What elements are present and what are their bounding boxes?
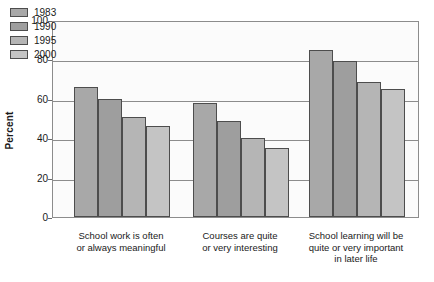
legend-item-1983[interactable]: 1983 xyxy=(10,6,96,19)
bar-1995-group-2 xyxy=(241,138,265,217)
bar-1995-group-3 xyxy=(357,82,381,217)
legend-swatch-icon-2000 xyxy=(10,50,28,59)
bar-1995-group-1 xyxy=(122,117,146,217)
legend-label-1983: 1983 xyxy=(34,8,56,18)
legend-item-1995[interactable]: 1995 xyxy=(10,34,96,47)
gridline-80 xyxy=(53,61,418,62)
bar-2000-group-3 xyxy=(381,89,405,217)
y-tick-label-0: 0 xyxy=(24,213,48,223)
bar-chart: Percent 100806040200 1983199019952000 Sc… xyxy=(0,0,434,282)
bar-1990-group-3 xyxy=(333,61,357,217)
x-category-label-3-line-1: School learning will be xyxy=(281,230,431,242)
y-axis-title: Percent xyxy=(0,95,18,165)
bar-1983-group-1 xyxy=(74,87,98,217)
plot-area xyxy=(52,21,419,218)
x-category-label-3-line-3: in later life xyxy=(281,253,431,265)
legend-item-1990[interactable]: 1990 xyxy=(10,20,96,33)
bar-2000-group-2 xyxy=(265,148,289,217)
legend-swatch-icon-1995 xyxy=(10,36,28,45)
legend-label-2000: 2000 xyxy=(34,50,56,60)
y-tickmark-0 xyxy=(48,218,52,219)
y-axis-title-text: Percent xyxy=(4,111,15,149)
y-tick-label-40: 40 xyxy=(24,134,48,144)
legend-swatch-icon-1983 xyxy=(10,8,28,17)
bar-1990-group-1 xyxy=(98,99,122,217)
x-category-label-3: School learning will bequite or very imp… xyxy=(281,230,431,265)
legend-swatch-icon-1990 xyxy=(10,22,28,31)
legend-label-1995: 1995 xyxy=(34,36,56,46)
y-tick-label-20: 20 xyxy=(24,174,48,184)
legend-label-1990: 1990 xyxy=(34,22,56,32)
bar-1990-group-2 xyxy=(217,121,241,217)
chart-legend: 1983199019952000 xyxy=(10,6,96,62)
bar-1983-group-2 xyxy=(193,103,217,217)
legend-item-2000[interactable]: 2000 xyxy=(10,48,96,61)
x-category-label-3-line-2: quite or very important xyxy=(281,242,431,254)
bar-1983-group-3 xyxy=(309,50,333,217)
bar-2000-group-1 xyxy=(146,126,170,217)
y-tick-label-60: 60 xyxy=(24,95,48,105)
